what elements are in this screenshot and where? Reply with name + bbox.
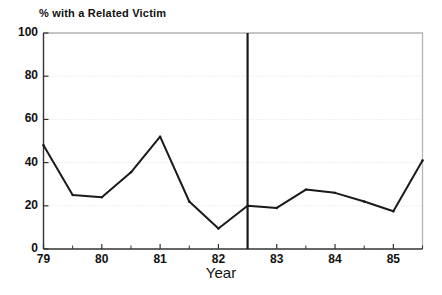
data-point-79.5 [71,194,73,196]
data-point-80.5 [130,171,132,173]
y-tick-label-40: 40 [4,155,38,169]
data-point-82 [217,227,219,229]
gridlines-group [44,33,423,206]
data-point-82.5 [246,205,248,207]
chart-container: % with a Related Victim 020406080100 798… [0,0,442,295]
data-series-line [42,135,423,229]
data-point-81.5 [188,200,190,202]
line-chart-plot [0,0,442,295]
data-point-85 [392,210,394,212]
data-point-79 [42,144,44,146]
data-point-83 [276,207,278,209]
data-point-83.5 [305,188,307,190]
data-point-80 [101,196,103,198]
y-tick-label-100: 100 [4,25,38,39]
y-tick-label-20: 20 [4,198,38,212]
x-axis-title: Year [0,264,442,281]
data-point-84.5 [363,200,365,202]
data-point-85.5 [421,159,423,161]
series-line-path [44,137,423,229]
y-tick-label-60: 60 [4,111,38,125]
data-point-81 [159,135,161,137]
y-tick-label-80: 80 [4,68,38,82]
data-point-84 [334,192,336,194]
